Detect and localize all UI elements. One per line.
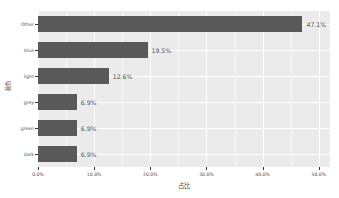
bar-value-label: 12.6% <box>113 73 133 80</box>
x-axis-tick-label: 0.0% <box>18 172 58 177</box>
y-axis-tick-mark <box>35 24 38 25</box>
gridline-minor-vertical <box>66 11 67 167</box>
x-axis-tick-mark <box>319 167 320 170</box>
x-axis-tick-labels: 0.0%10.0%20.0%30.0%40.0%50.0% <box>0 170 339 180</box>
bar-value-label: 6.9% <box>81 125 97 132</box>
x-axis-title: 占比 <box>38 181 330 190</box>
y-axis-tick-mark <box>35 128 38 129</box>
gridline-minor-vertical <box>178 11 179 167</box>
y-axis-tick-label: light <box>12 71 34 81</box>
bar-value-label: 6.9% <box>81 151 97 158</box>
x-axis-tick-label: 40.0% <box>243 172 283 177</box>
x-axis-tick-label: 10.0% <box>74 172 114 177</box>
x-axis-tick-mark <box>263 167 264 170</box>
bar <box>38 146 77 162</box>
x-axis-tick-mark <box>38 167 39 170</box>
bar <box>38 94 77 110</box>
gridline-minor-vertical <box>235 11 236 167</box>
bar <box>38 120 77 136</box>
y-axis-tick-label: grey <box>12 97 34 107</box>
bar-value-label: 47.1% <box>306 21 326 28</box>
gridline-major-vertical <box>94 11 95 167</box>
y-axis-tick-labels: Otherbluelightgreygreendark <box>12 11 34 167</box>
gridline-major-vertical <box>319 11 320 167</box>
gridline-minor-vertical <box>291 11 292 167</box>
gridline-major-vertical <box>206 11 207 167</box>
gridline-major-vertical <box>263 11 264 167</box>
bar-value-label: 19.5% <box>152 47 172 54</box>
gridline-major-vertical <box>150 11 151 167</box>
bar <box>38 68 109 84</box>
y-axis-tick-mark <box>35 50 38 51</box>
y-axis-tick-mark <box>35 76 38 77</box>
bar-value-label: 6.9% <box>81 99 97 106</box>
y-axis-tick-mark <box>35 154 38 155</box>
bar <box>38 42 148 58</box>
x-axis-tick-label: 50.0% <box>299 172 339 177</box>
x-axis-tick-mark <box>150 167 151 170</box>
y-axis-tick-label: blue <box>12 45 34 55</box>
y-axis-tick-mark <box>35 102 38 103</box>
bar <box>38 16 302 32</box>
y-axis-tick-label: dark <box>12 149 34 159</box>
x-axis-tick-label: 30.0% <box>186 172 226 177</box>
y-axis-tick-label: Other <box>12 19 34 29</box>
y-axis-title-text: 颜色 <box>4 80 11 90</box>
gridline-major-vertical <box>38 11 39 167</box>
bar-chart: 颜色 Otherbluelightgreygreendark 47.1%19.5… <box>0 0 339 198</box>
x-axis-tick-mark <box>206 167 207 170</box>
x-axis-tick-mark <box>94 167 95 170</box>
x-axis-tick-label: 20.0% <box>130 172 170 177</box>
gridline-minor-vertical <box>122 11 123 167</box>
plot-panel: 47.1%19.5%12.6%6.9%6.9%6.9% <box>38 11 330 167</box>
y-axis-tick-label: green <box>12 123 34 133</box>
